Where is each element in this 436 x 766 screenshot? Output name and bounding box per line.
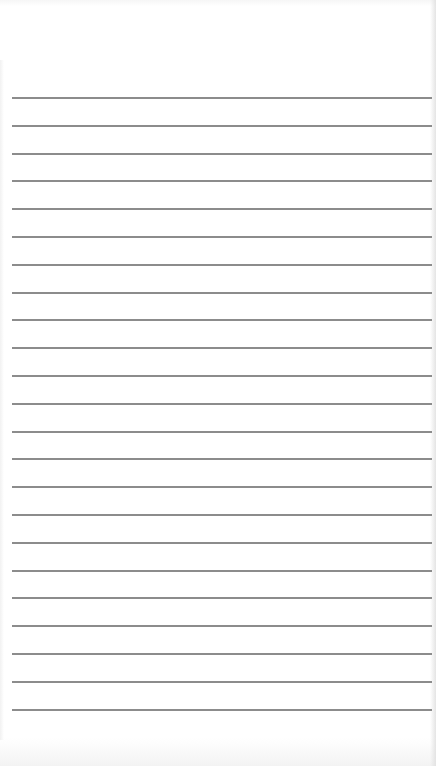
- ruled-paper-page: [0, 0, 436, 766]
- ruled-line: [12, 570, 432, 572]
- left-edge-shadow: [0, 60, 4, 740]
- ruled-line: [12, 625, 432, 627]
- ruled-line: [12, 236, 432, 238]
- ruled-line: [12, 681, 432, 683]
- ruled-line: [12, 542, 432, 544]
- ruled-line: [12, 709, 432, 711]
- ruled-line: [12, 403, 432, 405]
- ruled-line: [12, 347, 432, 349]
- ruled-line: [12, 292, 432, 294]
- ruled-line: [12, 319, 432, 321]
- ruled-line: [12, 431, 432, 433]
- ruled-line: [12, 264, 432, 266]
- ruled-line: [12, 125, 432, 127]
- ruled-line: [12, 208, 432, 210]
- ruled-line: [12, 653, 432, 655]
- ruled-line: [12, 180, 432, 182]
- ruled-line: [12, 597, 432, 599]
- ruled-line: [12, 97, 432, 99]
- ruled-line: [12, 458, 432, 460]
- ruled-line: [12, 375, 432, 377]
- right-edge-shadow: [430, 0, 436, 766]
- ruled-line: [12, 514, 432, 516]
- ruled-line: [12, 153, 432, 155]
- ruled-line: [12, 486, 432, 488]
